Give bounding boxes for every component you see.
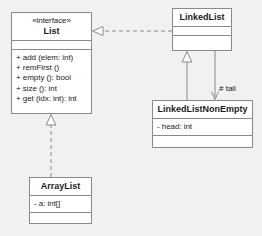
method-item: + size (): int	[16, 84, 87, 94]
method-item: + add (elem: int)	[16, 53, 87, 63]
methods-compartment-list: + add (elem: int) + remFirst () + empty …	[12, 49, 91, 107]
class-box-arraylist[interactable]: ArrayList - a: int[]	[29, 177, 92, 224]
class-name-list: List	[16, 26, 87, 37]
attribute-item: - head: int	[157, 122, 248, 132]
class-header-linkedlistnonempty: LinkedListNonEmpty	[153, 101, 252, 118]
class-name-arraylist: ArrayList	[34, 181, 87, 192]
edge-nonempty-extends-linkedlist	[182, 52, 192, 101]
attribute-item: - a: int[]	[34, 199, 87, 209]
attributes-compartment-list	[12, 40, 91, 49]
attributes-compartment-linkedlist	[173, 26, 231, 35]
method-item: + get (idx: int): int	[16, 94, 87, 104]
method-item: + remFirst ()	[16, 63, 87, 73]
stereotype-interface: «interface»	[16, 16, 87, 26]
methods-compartment-linkedlistnonempty	[153, 135, 252, 144]
class-header-linkedlist: LinkedList	[173, 9, 231, 26]
edge-arraylist-realizes-list	[46, 115, 56, 178]
hollow-triangle-arrowhead-list-right	[93, 27, 104, 36]
class-box-linkedlistnonempty[interactable]: LinkedListNonEmpty - head: int	[152, 100, 253, 148]
class-box-linkedlist[interactable]: LinkedList	[172, 8, 232, 51]
hollow-triangle-arrowhead-list-bottom	[46, 115, 56, 126]
association-role-label-tail: # tail	[219, 84, 236, 93]
class-name-linkedlistnonempty: LinkedListNonEmpty	[157, 104, 248, 115]
hollow-triangle-arrowhead-linkedlist-bottom	[182, 52, 192, 63]
class-header-list: «interface» List	[12, 13, 91, 40]
class-box-list[interactable]: «interface» List + add (elem: int) + rem…	[11, 12, 92, 114]
attributes-compartment-arraylist: - a: int[]	[30, 195, 91, 212]
edge-tail-association	[211, 51, 218, 100]
uml-diagram-canvas: «interface» List + add (elem: int) + rem…	[0, 0, 262, 236]
class-header-arraylist: ArrayList	[30, 178, 91, 195]
class-name-linkedlist: LinkedList	[177, 12, 227, 23]
methods-compartment-linkedlist	[173, 35, 231, 44]
methods-compartment-arraylist	[30, 212, 91, 221]
edge-linkedlist-realizes-list	[93, 27, 173, 36]
method-item: + empty (): bool	[16, 73, 87, 83]
attributes-compartment-linkedlistnonempty: - head: int	[153, 118, 252, 135]
